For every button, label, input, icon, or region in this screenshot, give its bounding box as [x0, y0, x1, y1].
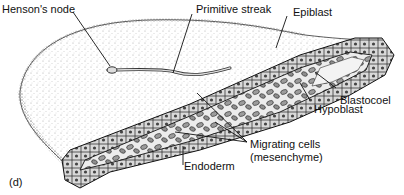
- label-hensons-node: Henson's node: [2, 3, 75, 15]
- embryo-diagram: Henson's node Primitive streak Epiblast …: [0, 0, 404, 195]
- hensons-node: [107, 67, 117, 73]
- label-mesenchyme: (mesenchyme): [250, 151, 323, 163]
- label-hypoblast: Hypoblast: [314, 103, 363, 115]
- label-epiblast: Epiblast: [293, 6, 332, 18]
- label-primitive-streak: Primitive streak: [196, 3, 271, 15]
- label-endoderm: Endoderm: [184, 160, 235, 172]
- label-migrating-cells: Migrating cells: [250, 138, 320, 150]
- panel-letter: (d): [9, 176, 22, 188]
